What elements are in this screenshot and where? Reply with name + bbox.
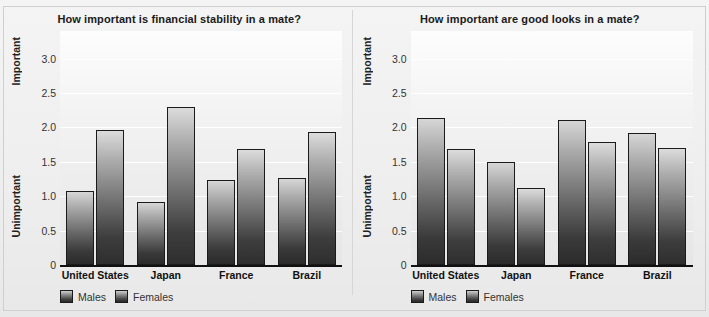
x-tick-label: Brazil: [292, 269, 321, 281]
bar-group: [622, 31, 693, 265]
bar-group: [552, 31, 623, 265]
y-axis-tick-labels: 00.51.01.52.02.53.0: [26, 31, 56, 273]
bar-females-japan: [517, 188, 545, 265]
bar-females-united-states: [96, 130, 124, 265]
y-tick-label: 0: [401, 259, 407, 271]
y-axis-label-unimportant: Unimportant: [361, 175, 373, 237]
legend-swatch-icon: [60, 290, 73, 303]
bar-females-japan: [167, 107, 195, 265]
x-axis-category-labels: United StatesJapanFranceBrazil: [60, 269, 342, 285]
y-tick-label: 2.0: [41, 121, 56, 133]
bar-group: [131, 31, 202, 265]
bar-group: [481, 31, 552, 265]
bar-females-united-states: [447, 149, 475, 265]
x-tick-label: Japan: [151, 269, 181, 281]
y-tick-label: 3.0: [41, 53, 56, 65]
bar-series-container: [60, 31, 342, 265]
bar-males-united-states: [66, 191, 94, 265]
y-axis-tick-labels: 00.51.01.52.02.53.0: [377, 31, 407, 273]
x-tick-label: Brazil: [643, 269, 672, 281]
chart-title: How important are good looks in a mate?: [355, 13, 706, 25]
bar-males-united-states: [417, 118, 445, 265]
legend-item-females[interactable]: Females: [466, 290, 524, 303]
bar-males-france: [207, 180, 235, 265]
y-axis-label-important: Important: [361, 37, 373, 85]
y-tick-label: 1.5: [41, 156, 56, 168]
bar-group: [201, 31, 272, 265]
y-tick-label: 0: [50, 259, 56, 271]
y-tick-label: 1.0: [41, 190, 56, 202]
figure-border-right: [705, 6, 706, 311]
bar-group: [272, 31, 343, 265]
y-axis-label-unimportant: Unimportant: [10, 175, 22, 237]
plot-area: [411, 31, 693, 267]
y-tick-label: 2.0: [392, 121, 407, 133]
legend-label: Males: [78, 291, 106, 303]
legend-item-males[interactable]: Males: [411, 290, 457, 303]
legend-label: Males: [429, 291, 457, 303]
legend-swatch-icon: [466, 290, 479, 303]
legend-swatch-icon: [411, 290, 424, 303]
y-tick-label: 0.5: [41, 225, 56, 237]
y-tick-label: 2.5: [41, 87, 56, 99]
y-tick-label: 0.5: [392, 225, 407, 237]
bar-group: [60, 31, 131, 265]
y-axis-label-important: Important: [10, 37, 22, 85]
bar-series-container: [411, 31, 693, 265]
bar-females-france: [588, 142, 616, 265]
y-tick-label: 1.0: [392, 190, 407, 202]
legend-item-males[interactable]: Males: [60, 290, 106, 303]
legend-swatch-icon: [115, 290, 128, 303]
x-axis-category-labels: United StatesJapanFranceBrazil: [411, 269, 693, 285]
panel-divider: [352, 10, 353, 295]
chart-panels: How important is financial stability in …: [4, 7, 705, 310]
chart-panel-good-looks: How important are good looks in a mate?I…: [355, 7, 706, 310]
bar-males-france: [558, 120, 586, 265]
legend-item-females[interactable]: Females: [115, 290, 173, 303]
chart-legend: MalesFemales: [411, 290, 524, 303]
chart-title: How important is financial stability in …: [4, 13, 355, 25]
x-tick-label: France: [570, 269, 604, 281]
bar-males-brazil: [628, 133, 656, 265]
figure-root: How important is financial stability in …: [0, 0, 709, 317]
x-tick-label: United States: [412, 269, 479, 281]
chart-panel-financial-stability: How important is financial stability in …: [4, 7, 355, 310]
y-tick-label: 2.5: [392, 87, 407, 99]
figure-border-bottom: [3, 310, 706, 311]
legend-label: Females: [133, 291, 173, 303]
bar-males-brazil: [278, 178, 306, 265]
y-tick-label: 3.0: [392, 53, 407, 65]
x-tick-label: United States: [62, 269, 129, 281]
legend-label: Females: [484, 291, 524, 303]
bar-males-japan: [137, 202, 165, 265]
x-tick-label: France: [219, 269, 253, 281]
bar-females-brazil: [658, 148, 686, 265]
y-tick-label: 1.5: [392, 156, 407, 168]
bar-males-japan: [487, 162, 515, 265]
plot-area: [60, 31, 342, 267]
bar-females-brazil: [308, 132, 336, 265]
chart-legend: MalesFemales: [60, 290, 173, 303]
x-tick-label: Japan: [501, 269, 531, 281]
bar-females-france: [237, 149, 265, 265]
bar-group: [411, 31, 482, 265]
